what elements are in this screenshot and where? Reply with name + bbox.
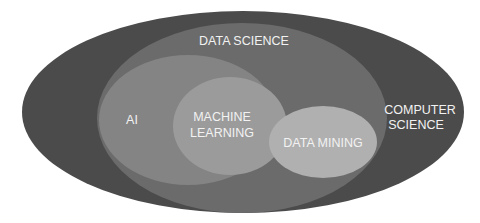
data-mining-label: DATA MINING: [283, 136, 362, 150]
data-science-label: DATA SCIENCE: [199, 34, 289, 48]
machine-learning-label-line1: MACHINE: [193, 110, 251, 124]
computer-science-label-line1: COMPUTER: [384, 103, 456, 117]
ai-label: AI: [126, 113, 138, 127]
computer-science-label-line2: SCIENCE: [388, 118, 444, 132]
machine-learning-label-line2: LEARNING: [190, 126, 254, 140]
venn-diagram: DATA SCIENCE AI MACHINE LEARNING DATA MI…: [0, 0, 480, 223]
